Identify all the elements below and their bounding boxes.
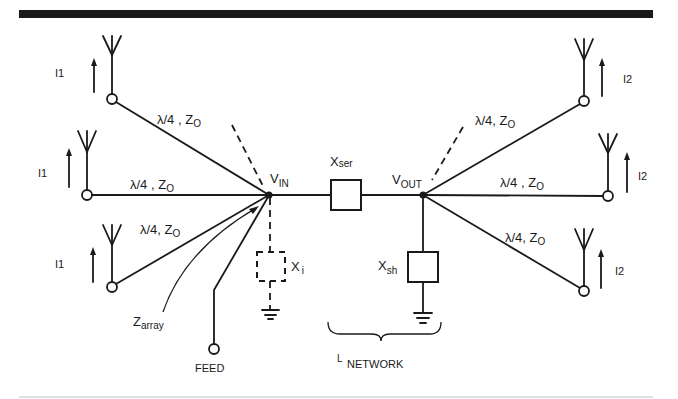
svg-text:λ/4, ZO: λ/4, ZO: [140, 222, 181, 239]
network-prefix: L: [337, 353, 343, 364]
ground-icon: [262, 310, 279, 319]
schematic-canvas: I1 I1 I1 I2 I2 I2 λ/4 , ZO λ/4 , ZO λ/4,…: [0, 0, 678, 399]
network-brace: [328, 322, 441, 341]
svg-text:λ/4, ZO: λ/4, ZO: [505, 230, 546, 247]
zarray-label: Zarray: [133, 314, 164, 331]
arrowhead-icon: [598, 249, 604, 257]
line-right-mid: [423, 195, 603, 196]
line-label-left-bot: λ/4, ZO: [140, 222, 181, 239]
arrowhead-icon: [91, 58, 97, 66]
antenna-left-mid: [66, 131, 96, 200]
current-label-right-bot: I2: [615, 265, 624, 277]
arrowhead-icon: [66, 148, 72, 156]
line-label-right-top: λ/4, ZO: [475, 113, 516, 130]
current-label-right-top: I2: [623, 73, 632, 85]
network-label: NETWORK: [347, 358, 404, 370]
feed-terminal[interactable]: [209, 344, 219, 354]
antenna-left-top: [91, 36, 121, 104]
dashed-extra-line-right: [432, 127, 463, 180]
line-label-right-mid: λ/4 , ZO: [500, 175, 544, 192]
antenna-right-mid: [599, 134, 630, 201]
current-label-left-mid: I1: [38, 167, 47, 179]
ground-icon: [414, 313, 432, 323]
antenna-left-bot: [90, 225, 121, 292]
xi-label: Xi: [291, 259, 304, 276]
top-rule: [19, 10, 653, 18]
xsh-label: Xsh: [378, 258, 397, 276]
arrowhead-icon: [249, 206, 259, 214]
svg-text:λ/4 , ZO: λ/4 , ZO: [157, 112, 201, 129]
xser-component: [331, 180, 361, 210]
current-label-left-bot: I1: [55, 258, 64, 270]
antenna-right-bot: [575, 229, 604, 296]
arrowhead-icon: [624, 152, 630, 160]
current-label-right-mid: I2: [638, 170, 647, 182]
svg-text:λ/4 , ZO: λ/4 , ZO: [500, 175, 544, 192]
current-label-left-top: I1: [55, 67, 64, 79]
xi-component: [257, 252, 285, 281]
line-left-bot: [116, 195, 269, 284]
line-label-left-top: λ/4 , ZO: [157, 112, 201, 129]
arrowhead-icon: [90, 247, 96, 255]
xser-label: Xser: [330, 154, 353, 169]
line-right-bot: [423, 195, 580, 288]
arrowhead-icon: [599, 58, 605, 66]
svg-text:λ/4 , ZO: λ/4 , ZO: [130, 177, 174, 194]
dashed-extra-line-left: [232, 125, 264, 188]
antenna-right-top: [575, 39, 605, 106]
vin-label: VIN: [270, 171, 289, 189]
line-label-left-mid: λ/4 , ZO: [130, 177, 174, 194]
vout-label: VOUT: [392, 172, 422, 190]
xsh-component: [408, 252, 438, 282]
zarray-arrow: [163, 208, 256, 312]
feed-label: FEED: [195, 362, 224, 374]
svg-text:λ/4, ZO: λ/4, ZO: [475, 113, 516, 130]
line-label-right-bot: λ/4, ZO: [505, 230, 546, 247]
